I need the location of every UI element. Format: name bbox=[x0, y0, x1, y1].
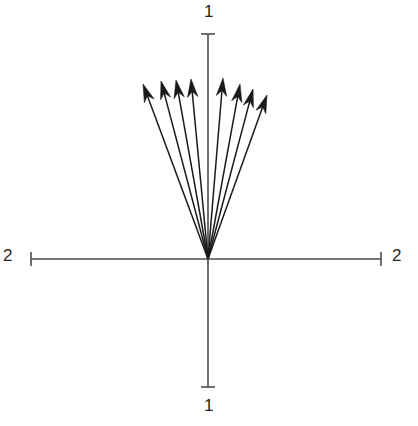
axis-label-left: 2 bbox=[3, 247, 12, 264]
arrow-shaft bbox=[191, 82, 208, 259]
axis-label-bottom: 1 bbox=[204, 397, 213, 414]
quiver-plot-figure: 2 2 1 1 bbox=[0, 0, 418, 426]
axis-label-right: 2 bbox=[392, 247, 401, 264]
arrow-vector bbox=[143, 84, 208, 259]
arrow-vector bbox=[208, 84, 242, 259]
arrow-shaft bbox=[208, 98, 266, 259]
axis-label-top: 1 bbox=[204, 3, 213, 20]
arrow-vector bbox=[161, 81, 208, 259]
arrow-vectors-group bbox=[143, 78, 267, 259]
arrow-vector bbox=[208, 95, 267, 259]
arrow-shaft bbox=[162, 84, 208, 259]
arrow-vector bbox=[174, 80, 208, 259]
arrow-shaft bbox=[144, 87, 208, 259]
arrow-shaft bbox=[208, 87, 239, 259]
axes-group bbox=[31, 34, 381, 387]
quiver-plot-canvas bbox=[0, 0, 418, 426]
arrow-shaft bbox=[177, 83, 208, 259]
